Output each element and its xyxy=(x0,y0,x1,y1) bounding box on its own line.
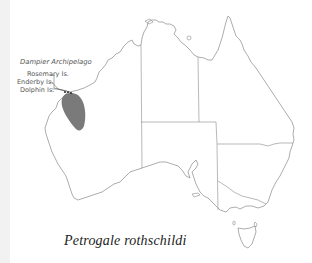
species-name-caption: Petrogale rothschildi xyxy=(64,233,187,249)
australia-map xyxy=(0,0,312,263)
groote-eylandt xyxy=(187,36,191,40)
qld-nsw-border xyxy=(217,143,293,146)
nsw-vic-border xyxy=(218,181,266,204)
tasmania-coastline xyxy=(238,226,256,248)
king-island xyxy=(233,221,235,225)
dolphin-is-marker xyxy=(70,92,72,94)
enderby-is-label: Enderby Is. xyxy=(17,78,53,86)
nt-qld-border xyxy=(198,57,199,122)
wa-nt-sa-border xyxy=(141,45,142,168)
dolphin-is-label: Dolphin Is. xyxy=(20,86,54,94)
rosemary-is-label: Rosemary Is. xyxy=(27,70,69,78)
species-range-area xyxy=(62,93,86,130)
sa-nsw-vic-border xyxy=(217,144,218,210)
state-borders xyxy=(141,45,293,210)
sa-qld-border xyxy=(216,122,217,144)
dampier-archipelago-label: Dampier Archipelago xyxy=(20,58,92,66)
rosemary-is-marker xyxy=(64,91,66,93)
kangaroo-island xyxy=(192,193,200,197)
